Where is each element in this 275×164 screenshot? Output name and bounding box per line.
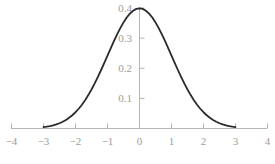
y-axis-tick-label: 0.3 (108, 33, 132, 44)
x-axis-tick-label: −3 (38, 136, 50, 147)
x-axis-tick-label: 2 (201, 136, 207, 147)
x-axis-tick-label: 0 (137, 136, 143, 147)
y-axis-tick-label: 0.2 (108, 63, 132, 74)
x-axis-tick-label: 1 (169, 136, 175, 147)
x-axis-tick-label: −1 (102, 136, 114, 147)
normal-distribution-figure: −4−3−2−101234 0.10.20.30.4 (0, 0, 275, 164)
x-axis-tick-label: 3 (233, 136, 239, 147)
y-axis-ticks (140, 8, 145, 98)
y-axis-tick-label: 0.4 (108, 3, 132, 14)
x-axis-tick-label: −2 (70, 136, 82, 147)
x-axis-tick-label: −4 (6, 136, 18, 147)
y-axis-tick-label: 0.1 (108, 93, 132, 104)
x-axis-tick-label: 4 (265, 136, 271, 147)
y-axis-group (140, 7, 145, 129)
